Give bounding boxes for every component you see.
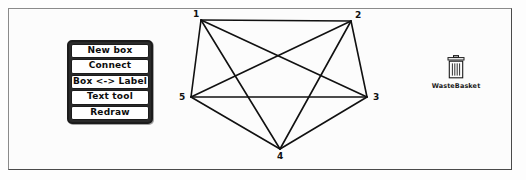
graph-node-4[interactable]: 4 (277, 152, 283, 161)
graph-node-1[interactable]: 1 (193, 10, 199, 19)
graph-node-2[interactable]: 2 (355, 11, 361, 20)
redraw-button[interactable]: Redraw (71, 106, 149, 120)
box-label-toggle-button[interactable]: Box <-> Label (71, 75, 149, 89)
graph-edge[interactable] (191, 21, 351, 97)
new-box-button[interactable]: New box (71, 44, 149, 58)
trash-can-icon[interactable] (445, 55, 467, 81)
graph-edge[interactable] (191, 97, 280, 149)
graph-edge[interactable] (201, 20, 351, 21)
graph-node-3[interactable]: 3 (373, 93, 379, 102)
graph-node-5[interactable]: 5 (179, 93, 185, 102)
tool-menu-panel[interactable]: New boxConnectBox <-> LabelText toolRedr… (67, 40, 153, 124)
graph-edge[interactable] (191, 20, 201, 97)
graph-edge[interactable] (351, 21, 367, 97)
connect-button[interactable]: Connect (71, 59, 149, 73)
graph-edge[interactable] (280, 97, 367, 149)
graph-edges (191, 20, 367, 149)
text-tool-button[interactable]: Text tool (71, 90, 149, 104)
wastebasket-label: WasteBasket (431, 82, 481, 90)
graph-edge[interactable] (201, 20, 367, 97)
application-window: 12345 New boxConnectBox <-> LabelText to… (0, 0, 526, 180)
graph-edge[interactable] (201, 20, 280, 149)
wastebasket-icon-container[interactable]: WasteBasket (431, 55, 481, 90)
